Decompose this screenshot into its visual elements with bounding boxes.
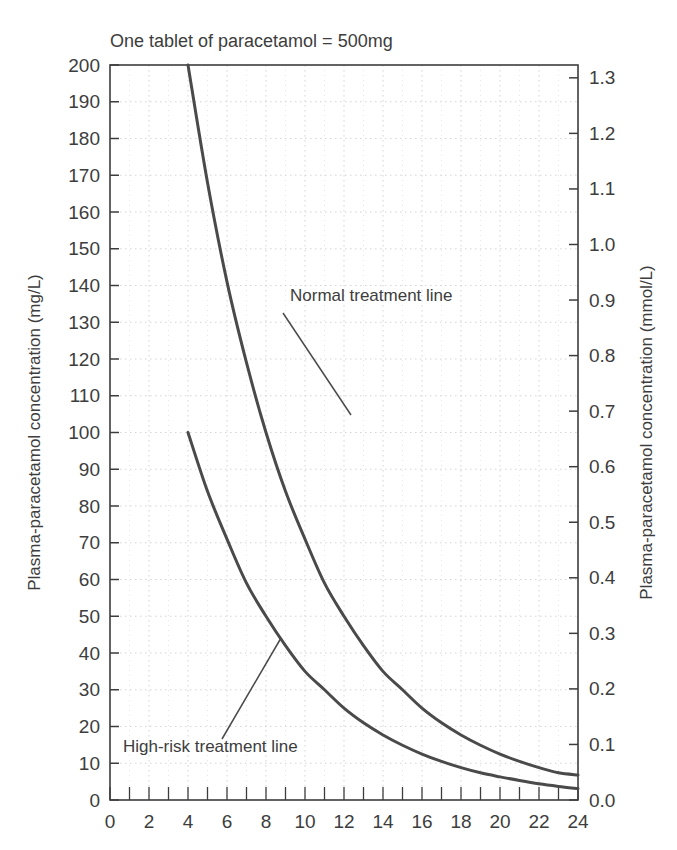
chart-title: One tablet of paracetamol = 500mg: [110, 31, 393, 51]
y-axis-right-tick-label: 0.4: [589, 567, 616, 588]
y-axis-right-tick-label: 0.2: [589, 678, 615, 699]
chart-background: [0, 0, 677, 850]
x-axis-tick-label: 14: [372, 811, 394, 832]
y-axis-left-tick-label: 0: [89, 790, 100, 811]
y-axis-left-tick-label: 140: [68, 275, 100, 296]
y-axis-left-tick-label: 190: [68, 91, 100, 112]
y-axis-right-tick-label: 0.3: [589, 623, 615, 644]
y-axis-right-title: Plasma-paracetamol concentration (mmol/L…: [637, 265, 656, 599]
y-axis-left-tick-label: 70: [79, 532, 100, 553]
x-axis-tick-label: 20: [489, 811, 510, 832]
y-axis-left-tick-label: 170: [68, 165, 100, 186]
y-axis-right-tick-label: 0.0: [589, 790, 615, 811]
y-axis-right-tick-label: 0.8: [589, 345, 615, 366]
y-axis-left-tick-label: 10: [79, 753, 100, 774]
y-axis-left-tick-label: 80: [79, 496, 100, 517]
y-axis-right-tick-label: 0.9: [589, 290, 615, 311]
y-axis-right-tick-label: 0.6: [589, 456, 615, 477]
y-axis-left-tick-label: 30: [79, 679, 100, 700]
x-axis-tick-label: 12: [333, 811, 354, 832]
y-axis-right-tick-label: 1.3: [589, 67, 615, 88]
chart-canvas: One tablet of paracetamol = 500mg 010203…: [0, 0, 677, 850]
y-axis-left-tick-label: 50: [79, 606, 100, 627]
y-axis-left-tick-label: 120: [68, 349, 100, 370]
y-axis-left-tick-label: 130: [68, 312, 100, 333]
x-axis-tick-label: 4: [183, 811, 194, 832]
y-axis-right-tick-label: 1.0: [589, 234, 615, 255]
y-axis-left-tick-label: 160: [68, 202, 100, 223]
y-axis-left-title: Plasma-paracetamol concentration (mg/L): [25, 274, 44, 591]
x-axis-tick-label: 6: [222, 811, 233, 832]
x-axis-tick-label: 16: [411, 811, 432, 832]
y-axis-right-tick-label: 1.1: [589, 178, 615, 199]
x-axis-tick-label: 2: [144, 811, 155, 832]
y-axis-right-tick-label: 0.1: [589, 734, 615, 755]
annotation-normal-treatment-label: Normal treatment line: [290, 286, 453, 305]
y-axis-left-tick-label: 180: [68, 128, 100, 149]
y-axis-right-tick-label: 0.7: [589, 401, 615, 422]
x-axis-tick-label: 10: [294, 811, 315, 832]
annotation-high-risk-label: High-risk treatment line: [123, 737, 298, 756]
x-axis-tick-label: 8: [261, 811, 272, 832]
y-axis-left-tick-label: 150: [68, 238, 100, 259]
y-axis-right-tick-label: 1.2: [589, 123, 615, 144]
x-axis-tick-label: 0: [105, 811, 116, 832]
y-axis-right-tick-label: 0.5: [589, 512, 615, 533]
y-axis-left-tick-label: 60: [79, 569, 100, 590]
x-axis-tick-label: 24: [567, 811, 589, 832]
paracetamol-nomogram-chart: One tablet of paracetamol = 500mg 010203…: [0, 0, 677, 850]
x-axis-tick-label: 22: [528, 811, 549, 832]
x-axis-tick-label: 18: [450, 811, 471, 832]
y-axis-left-tick-label: 20: [79, 716, 100, 737]
y-axis-left-tick-label: 200: [68, 55, 100, 76]
y-axis-left-tick-label: 90: [79, 459, 100, 480]
y-axis-left-tick-label: 100: [68, 422, 100, 443]
y-axis-left-tick-label: 110: [70, 385, 100, 406]
y-axis-left-tick-label: 40: [79, 643, 100, 664]
